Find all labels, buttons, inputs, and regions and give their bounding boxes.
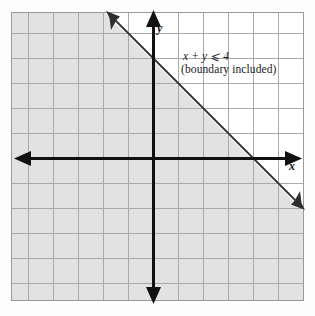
- inequality-annotation: x + y ⩽ 4: [183, 50, 229, 63]
- boundary-included-note: (boundary included): [181, 63, 276, 76]
- x-axis-label: x: [289, 159, 295, 174]
- y-axis-label: y: [157, 21, 162, 36]
- inequality-graph-figure: y x x + y ⩽ 4 (boundary included): [0, 0, 315, 316]
- inequality-expression: x + y ⩽ 4: [183, 50, 229, 62]
- coordinate-plane: [0, 0, 315, 316]
